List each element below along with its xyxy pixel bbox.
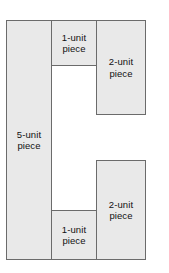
piece-label-1-unit-bottom: 1-unit piece xyxy=(62,224,86,247)
piece-label-2-unit-bottom: 2-unit piece xyxy=(109,199,133,222)
piece-5-unit-left: 5-unit piece xyxy=(6,20,52,260)
piece-1-unit-bottom: 1-unit piece xyxy=(51,210,97,260)
piece-2-unit-top: 2-unit piece xyxy=(96,20,146,115)
piece-2-unit-bottom: 2-unit piece xyxy=(96,160,146,260)
piece-label-1-unit-top: 1-unit piece xyxy=(62,32,86,55)
pieces-diagram: 5-unit piece 1-unit piece 2-unit piece 2… xyxy=(0,0,169,273)
piece-label-5-unit: 5-unit piece xyxy=(17,129,41,152)
piece-label-2-unit-top: 2-unit piece xyxy=(109,56,133,79)
piece-1-unit-top: 1-unit piece xyxy=(51,20,97,66)
